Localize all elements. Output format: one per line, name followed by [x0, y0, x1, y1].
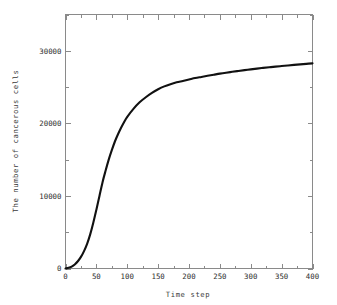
y-tick-label: 10000	[39, 192, 61, 201]
y-tick-label: 30000	[39, 47, 61, 56]
x-tick-label: 400	[306, 272, 319, 281]
x-tick-label: 250	[213, 272, 226, 281]
y-axis-title: The number of cancerous cells	[11, 70, 20, 213]
y-tick-label: 20000	[39, 119, 61, 128]
x-tick-label: 150	[151, 272, 164, 281]
x-tick-label: 0	[63, 272, 67, 281]
cancerous-cells-line-chart: 050100150200250300350400 010000200003000…	[0, 0, 337, 305]
x-tick-label: 50	[92, 272, 101, 281]
x-tick-label: 300	[244, 272, 257, 281]
x-tick-label: 100	[121, 272, 134, 281]
y-tick-label: 0	[57, 264, 61, 273]
x-tick-label: 350	[275, 272, 288, 281]
x-tick-label: 200	[182, 272, 195, 281]
x-axis-title: Time step	[166, 290, 210, 299]
